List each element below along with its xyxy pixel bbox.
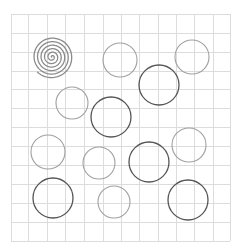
circle-light — [98, 186, 130, 218]
circles-group — [31, 40, 209, 220]
circle-dark — [168, 180, 208, 220]
diagram-canvas — [0, 0, 243, 246]
circle-dark — [129, 142, 169, 182]
circle-light — [56, 87, 88, 119]
circle-light — [175, 40, 209, 74]
circle-light — [83, 147, 115, 179]
circle-dark — [91, 97, 131, 137]
circle-light — [172, 128, 206, 162]
